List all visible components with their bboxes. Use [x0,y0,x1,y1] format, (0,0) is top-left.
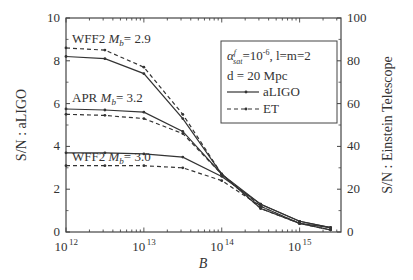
data-point-marker [329,228,332,231]
data-point-marker [65,164,68,167]
data-point-marker [65,108,68,111]
data-point-marker [220,179,223,182]
data-point-marker [181,156,184,159]
data-point-marker [104,49,107,52]
legend-label-et: ET [263,101,279,116]
x-axis-title: B [199,256,208,271]
data-point-marker [259,205,262,208]
y-tick-label-right: 40 [347,138,360,153]
y-tick-label-left: 8 [54,53,61,68]
data-point-marker [298,222,301,225]
data-point-marker [181,113,184,116]
sn-vs-b-chart: 02468100204060801001012101310141015 B S/… [0,0,413,280]
data-point-marker [104,114,107,117]
legend-marker [245,91,248,94]
data-point-marker [181,132,184,135]
data-point-marker [65,113,68,116]
data-point-marker [220,175,223,178]
series-line [66,114,331,230]
data-point-marker [142,117,145,120]
curve-label: WFF2 Mb= 2.9 [72,31,151,48]
data-point-marker [181,117,184,120]
y-tick-label-right: 20 [347,181,360,196]
legend-distance-line: d = 20 Mpc [227,68,288,83]
y-tick-label-left: 2 [54,181,61,196]
y-tick-label-right: 80 [347,53,360,68]
y-tick-label-right: 100 [347,10,367,25]
curve-label: APR Mb= 3.2 [72,90,143,107]
series-line [66,109,331,228]
y-tick-label-left: 4 [54,138,61,153]
series-line [66,153,331,228]
y-axis-title-right: S/N : Einstein Telescope [380,56,395,194]
x-tick-exponent: 13 [147,237,157,247]
x-tick-label: 10 [55,239,68,254]
data-point-marker [104,57,107,60]
y-tick-label-right: 60 [347,96,360,111]
legend: αfsat=10-6, l=m=2d = 20 MpcaLIGOET [221,41,337,123]
x-tick-label: 10 [210,239,223,254]
x-tick-label: 10 [132,239,145,254]
data-point-marker [65,151,68,154]
data-point-marker [142,111,145,114]
y-tick-label-left: 6 [54,96,61,111]
legend-label-aligo: aLIGO [263,84,300,99]
data-point-marker [65,55,68,58]
y-axis-title-left: S/N : aLIGO [14,89,29,161]
y-tick-label-left: 0 [54,224,61,239]
data-point-marker [142,164,145,167]
legend-marker [245,108,248,111]
y-tick-label-left: 10 [47,10,60,25]
curve-annotations: WFF2 Mb= 2.9APR Mb= 3.2WFF2 Mb= 3.0 [72,31,151,166]
x-tick-exponent: 14 [225,237,235,247]
curve-label: WFF2 Mb= 3.0 [72,149,151,166]
x-tick-label: 10 [288,239,301,254]
data-point-marker [104,164,107,167]
x-tick-exponent: 12 [69,237,78,247]
data-point-marker [104,109,107,112]
data-point-marker [181,166,184,169]
data-point-marker [65,47,68,50]
x-tick-exponent: 15 [303,237,313,247]
y-tick-label-right: 0 [347,224,354,239]
data-point-marker [142,66,145,69]
data-point-marker [142,72,145,75]
